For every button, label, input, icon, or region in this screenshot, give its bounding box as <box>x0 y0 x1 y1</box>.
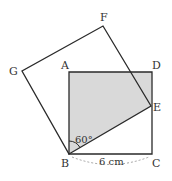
label-d: D <box>152 59 161 72</box>
label-a: A <box>60 59 70 72</box>
geometry-diagram: A B C D E F G 60° 6 cm <box>0 0 172 181</box>
label-f: F <box>100 11 108 24</box>
label-b: B <box>61 157 69 170</box>
label-c: C <box>152 157 160 170</box>
label-e: E <box>153 101 161 114</box>
label-g: G <box>9 65 18 78</box>
length-label: 6 cm <box>99 156 124 167</box>
angle-label: 60° <box>75 134 93 145</box>
